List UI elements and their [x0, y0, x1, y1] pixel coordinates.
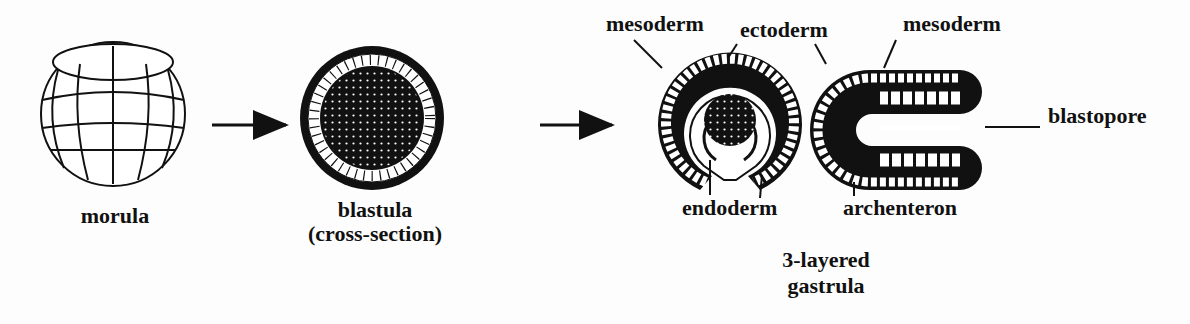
morula-illustration — [41, 42, 185, 186]
gastrula-label-line1: 3-layered — [766, 248, 886, 272]
mesoderm-label-right: mesoderm — [903, 12, 1001, 36]
diagram-canvas — [0, 0, 1190, 324]
blastula-label: blastula — [300, 198, 450, 222]
endoderm-label: endoderm — [682, 196, 777, 220]
gastrula-label-line2: gastrula — [766, 274, 886, 298]
archenteron-label: archenteron — [843, 196, 957, 220]
ectoderm-label: ectoderm — [740, 18, 828, 42]
blastopore-label: blastopore — [1048, 104, 1147, 128]
blastula-sublabel: (cross-section) — [300, 222, 450, 246]
gastrula-early-illustration — [658, 53, 802, 190]
blastula-illustration — [300, 46, 444, 190]
mesoderm-label-left: mesoderm — [606, 12, 704, 36]
morula-label: morula — [55, 204, 175, 228]
gastrula-late-illustration — [810, 70, 1040, 190]
